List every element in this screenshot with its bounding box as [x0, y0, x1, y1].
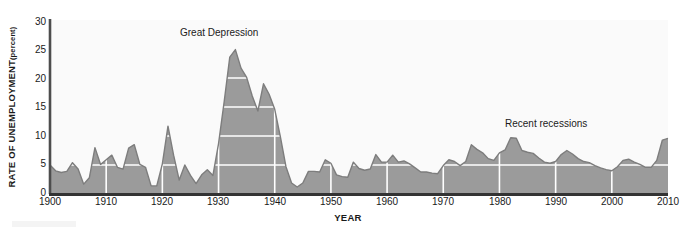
x-tick-1940: 1940 — [253, 196, 297, 207]
x-tick-1920: 1920 — [140, 196, 184, 207]
x-tick-1960: 1960 — [365, 196, 409, 207]
x-tick-1970: 1970 — [421, 196, 465, 207]
x-tick-1990: 1990 — [534, 196, 578, 207]
x-tick-1930: 1930 — [196, 196, 240, 207]
x-tick-1980: 1980 — [478, 196, 522, 207]
annotation-great-depression: Great Depression — [180, 27, 258, 38]
x-tick-1910: 1910 — [84, 196, 128, 207]
annotation-recent-recessions: Recent recessions — [505, 118, 587, 129]
x-axis-ticks: 1900 1910 1920 1930 1940 1950 1960 1970 … — [0, 196, 696, 210]
x-tick-2010: 2010 — [646, 196, 690, 207]
x-axis-title: YEAR — [0, 212, 696, 223]
unemployment-rate-chart: RATE OF UNEMPLOYMENT(percent) 30 25 20 1… — [0, 0, 696, 234]
x-tick-1950: 1950 — [309, 196, 353, 207]
x-tick-2000: 2000 — [590, 196, 634, 207]
x-tick-1900: 1900 — [28, 196, 72, 207]
scan-artifact — [12, 221, 76, 227]
